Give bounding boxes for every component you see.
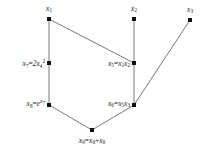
graph-edge-x6-to-x9 [92,105,134,130]
graph-edge-x3-to-x6 [134,20,190,105]
graph-node-label-x1: x1 [46,5,52,14]
graph-node-x8 [47,103,51,107]
graph-node-label-x6: x6=x5x3 [108,100,130,109]
graph-node-x5 [132,61,136,65]
graph-node-label-x3: x3 [187,6,193,15]
graph-node-x3 [188,18,192,22]
computational-graph-figure: x1x2x3x7=2x42x5=x1x2x8=ex7x6=x5x3x9=x6+x… [0,0,208,153]
graph-node-label-x9: x9=x6+x8 [79,137,105,146]
graph-edge-x8-to-x9 [49,105,92,130]
graph-node-x2 [132,17,136,21]
graph-node-x1 [47,17,51,21]
graph-edge-x1-to-x5 [49,19,134,63]
graph-node-x9 [90,128,94,132]
graph-node-label-x5: x5=x1x2 [108,60,130,69]
graph-node-x6 [132,103,136,107]
graph-edges-layer [0,0,208,153]
graph-node-label-x2: x2 [131,5,137,14]
graph-node-label-x7: x7=2x42 [23,59,45,69]
graph-node-label-x8: x8=ex7 [27,99,45,109]
graph-node-x7 [47,61,51,65]
